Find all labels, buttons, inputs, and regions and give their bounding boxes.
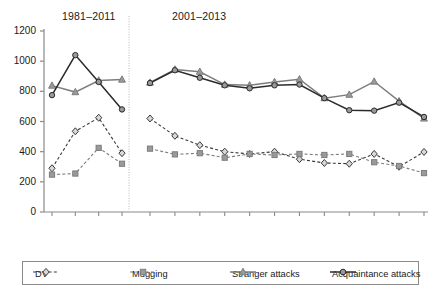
legend-item-stranger-attacks[interactable]: Stranger attacks [228, 266, 300, 282]
data-point-marker [222, 155, 227, 160]
data-point-marker [372, 160, 377, 165]
legend-symbol-diamond-icon [31, 266, 61, 278]
legend-item-dv[interactable]: DV [31, 266, 48, 282]
data-point-marker [72, 128, 78, 135]
legend-symbol-triangle-icon [228, 266, 258, 278]
data-point-marker [172, 132, 178, 139]
y-tick-label: 200 [2, 176, 36, 187]
legend-item-acquaintance-attacks[interactable]: Acquaintance attacks [328, 266, 420, 282]
legend-symbol-square-icon [128, 266, 158, 278]
data-point-marker [49, 172, 54, 177]
data-point-marker [347, 151, 352, 156]
series-line-stranger-attacks [150, 69, 424, 118]
data-point-marker [297, 82, 302, 87]
data-point-marker [49, 165, 55, 172]
data-point-marker [321, 159, 327, 166]
chart-legend: DVMuggingStranger attacksAcquaintance at… [22, 261, 419, 285]
data-point-marker [49, 92, 54, 97]
data-point-marker [396, 163, 401, 168]
data-point-marker [421, 170, 426, 175]
legend-item-mugging[interactable]: Mugging [128, 266, 168, 282]
y-tick-label: 400 [2, 146, 36, 157]
data-point-marker [347, 107, 352, 112]
data-point-marker [172, 152, 177, 157]
data-point-marker [197, 151, 202, 156]
series-line-mugging [150, 149, 424, 173]
data-point-marker [49, 82, 56, 88]
data-point-marker [147, 115, 153, 122]
data-point-marker [222, 83, 227, 88]
data-point-marker [272, 83, 277, 88]
data-point-marker [172, 68, 177, 73]
plot-area [0, 0, 441, 292]
data-point-marker [272, 152, 277, 157]
data-point-marker [147, 80, 152, 85]
data-point-marker [421, 114, 426, 119]
data-point-marker [371, 108, 376, 113]
series-line-stranger-attacks [52, 80, 122, 93]
y-tick-label: 600 [2, 116, 36, 127]
data-point-marker [296, 76, 303, 82]
data-point-marker [222, 148, 228, 155]
data-point-marker [421, 148, 427, 155]
series-line-mugging [52, 148, 122, 175]
series-line-acquaintance-attacks [52, 55, 122, 109]
data-point-marker [297, 151, 302, 156]
series-line-dv [150, 118, 424, 166]
y-tick-label: 1200 [2, 25, 36, 36]
chart-figure: 1981–2011 2001–2013 02004006008001000120… [0, 0, 441, 292]
legend-symbol-circle-icon [328, 266, 358, 278]
series-line-acquaintance-attacks [150, 70, 424, 117]
data-point-marker [147, 146, 152, 151]
data-point-marker [396, 100, 401, 105]
data-point-marker [322, 95, 327, 100]
data-point-marker [96, 79, 101, 84]
data-point-marker [197, 142, 203, 149]
data-point-marker [371, 150, 377, 157]
y-tick-label: 1000 [2, 55, 36, 66]
data-point-marker [322, 152, 327, 157]
data-point-marker [96, 145, 101, 150]
data-point-marker [197, 75, 202, 80]
data-point-marker [119, 107, 124, 112]
data-point-marker [371, 78, 378, 84]
y-tick-label: 0 [2, 206, 36, 217]
data-point-marker [247, 86, 252, 91]
data-point-marker [119, 161, 124, 166]
data-point-marker [73, 52, 78, 57]
y-tick-label: 800 [2, 85, 36, 96]
series-line-dv [52, 118, 122, 169]
data-point-marker [73, 171, 78, 176]
data-point-marker [346, 160, 352, 167]
data-point-marker [247, 151, 252, 156]
